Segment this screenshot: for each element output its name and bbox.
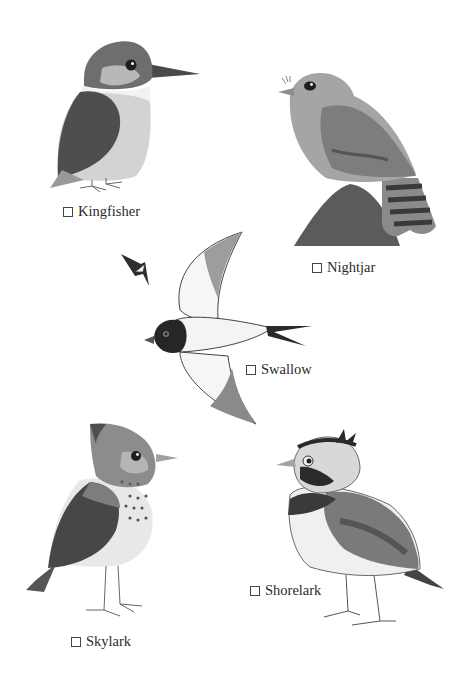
- nightjar-checkbox-label[interactable]: Nightjar: [312, 259, 375, 276]
- kingfisher-illustration: [40, 30, 210, 200]
- skylark-checkbox-label[interactable]: Skylark: [71, 633, 131, 650]
- nightjar-illustration: [270, 60, 440, 250]
- shorelark-checkbox[interactable]: [250, 586, 260, 596]
- swallow-label: Swallow: [261, 361, 312, 378]
- skylark-checkbox[interactable]: [71, 637, 81, 647]
- shorelark-checkbox-label[interactable]: Shorelark: [250, 582, 321, 599]
- skylark-label: Skylark: [86, 633, 131, 650]
- swallow-illustration: [140, 228, 320, 428]
- skylark-illustration: [20, 420, 190, 630]
- shorelark-illustration: [270, 425, 450, 645]
- swallow-checkbox-label[interactable]: Swallow: [246, 361, 312, 378]
- shorelark-label: Shorelark: [265, 582, 321, 599]
- kingfisher-checkbox-label[interactable]: Kingfisher: [63, 203, 140, 220]
- nightjar-label: Nightjar: [327, 259, 375, 276]
- swallow-checkbox[interactable]: [246, 365, 256, 375]
- kingfisher-label: Kingfisher: [78, 203, 140, 220]
- kingfisher-checkbox[interactable]: [63, 207, 73, 217]
